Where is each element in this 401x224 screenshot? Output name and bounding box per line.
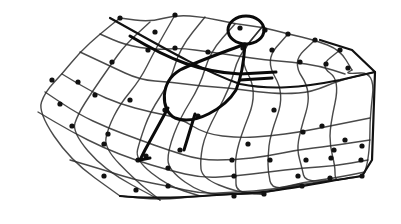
net-knot [101,173,106,178]
net-knot [172,12,177,17]
net-knot [269,47,274,52]
net-knot [303,157,308,162]
net-knot [75,79,80,84]
net-knot [245,141,250,146]
net-knot [231,173,236,178]
net-knot [152,29,157,34]
net-knot [312,37,317,42]
net-knot [177,147,182,152]
net-knot [165,165,170,170]
net-knot [319,123,324,128]
net-knot [229,157,234,162]
net-knot [49,77,54,82]
net-knot [300,129,305,134]
sketch-canvas [0,0,401,224]
net-knot [237,25,242,30]
net-knot [299,183,304,188]
net-knot [109,59,114,64]
net-knot [101,141,106,146]
net-knot [105,131,110,136]
net-knot [57,101,62,106]
net-knot [267,157,272,162]
net-knot [323,61,328,66]
net-knot [297,59,302,64]
net-knot [285,31,290,36]
net-knot [328,155,333,160]
net-knot [117,15,122,20]
figure-arm-lower [240,78,272,80]
net-knot [231,193,236,198]
net-knot [358,157,363,162]
net-knot [359,173,364,178]
net-knot [337,47,342,52]
net-knot [261,191,266,196]
net-knot [359,143,364,148]
net-knot [345,65,350,70]
figure-foot [140,158,150,160]
net-knot [165,183,170,188]
net-knot [331,147,336,152]
net-knot [127,97,132,102]
net-knot [295,173,300,178]
net-knot [172,45,177,50]
net-knot [342,137,347,142]
net-knot [327,175,332,180]
net-knot [133,187,138,192]
net-knot [92,92,97,97]
net-knot [69,123,74,128]
net-knot [271,107,276,112]
net-knot [205,49,210,54]
